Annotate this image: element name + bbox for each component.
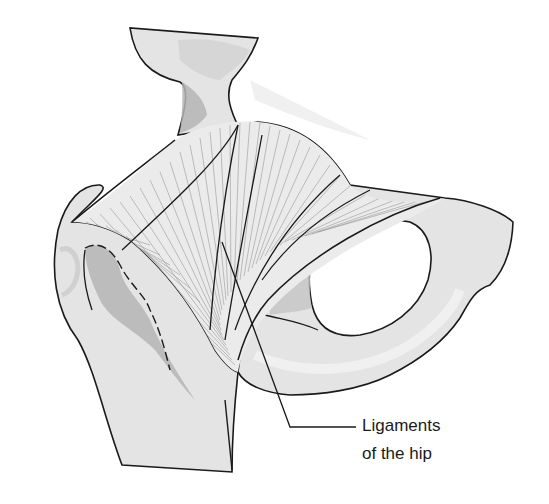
callout-label-line-1: Ligaments [362, 416, 440, 436]
callout-label-line-2: of the hip [362, 444, 432, 464]
hip-anatomy-illustration [0, 0, 549, 504]
